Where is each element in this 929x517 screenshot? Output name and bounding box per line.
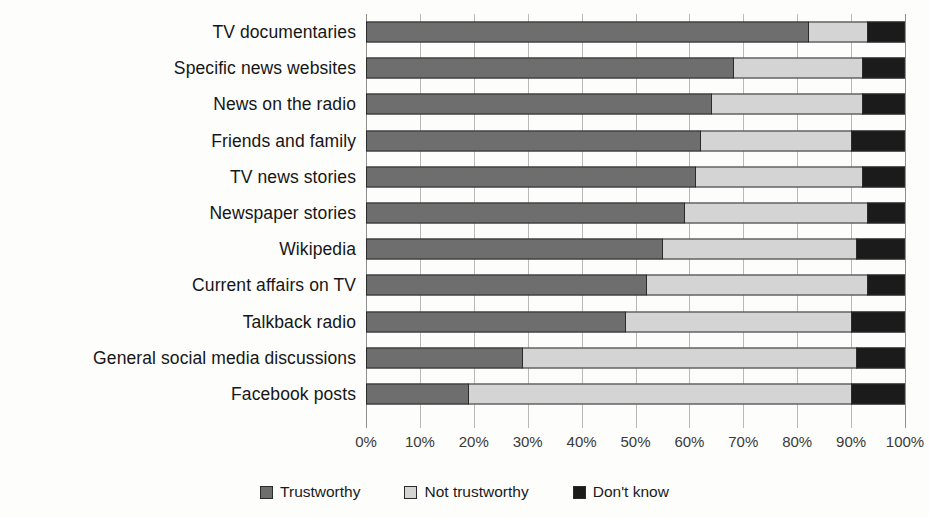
stacked-bar[interactable] [366, 166, 905, 187]
bar-segment-don-t-know[interactable] [862, 58, 905, 79]
bar-segment-trustworthy[interactable] [366, 22, 808, 43]
bar-segment-trustworthy[interactable] [366, 347, 522, 368]
bar-segment-don-t-know[interactable] [856, 347, 905, 368]
legend-label-not-trustworthy: Not trustworthy [424, 483, 528, 501]
x-axis-tick-labels: 0%10%20%30%40%50%60%70%80%90%100% [366, 432, 905, 458]
x-tick-label: 30% [513, 432, 543, 452]
legend-swatch-dont-know [573, 486, 586, 499]
legend-swatch-trustworthy [260, 486, 273, 499]
bar-segment-not-trustworthy[interactable] [700, 130, 851, 151]
bar-segment-not-trustworthy[interactable] [695, 166, 862, 187]
bar-segment-don-t-know[interactable] [851, 383, 905, 404]
bar-segment-not-trustworthy[interactable] [468, 383, 851, 404]
chart-row: TV documentaries [0, 14, 929, 50]
bar-segment-don-t-know[interactable] [862, 94, 905, 115]
bar-segment-trustworthy[interactable] [366, 239, 662, 260]
bar-segment-don-t-know[interactable] [867, 22, 905, 43]
bar-track [366, 123, 905, 159]
stacked-bar[interactable] [366, 94, 905, 115]
stacked-bar[interactable] [366, 275, 905, 296]
stacked-bar[interactable] [366, 130, 905, 151]
bar-track [366, 86, 905, 122]
stacked-bar[interactable] [366, 239, 905, 260]
legend-item-trustworthy[interactable]: Trustworthy [260, 483, 360, 501]
bar-segment-not-trustworthy[interactable] [646, 275, 867, 296]
chart-row: Talkback radio [0, 304, 929, 340]
chart-row: News on the radio [0, 86, 929, 122]
bar-track [366, 231, 905, 267]
stacked-bar[interactable] [366, 347, 905, 368]
category-label: News on the radio [0, 94, 366, 114]
bar-segment-don-t-know[interactable] [867, 275, 905, 296]
bar-segment-don-t-know[interactable] [851, 130, 905, 151]
bar-segment-don-t-know[interactable] [867, 203, 905, 224]
stacked-bar[interactable] [366, 58, 905, 79]
bar-segment-trustworthy[interactable] [366, 275, 646, 296]
legend-swatch-not-trustworthy [404, 486, 417, 499]
category-label: TV news stories [0, 167, 366, 187]
bar-track [366, 14, 905, 50]
bar-segment-not-trustworthy[interactable] [662, 239, 856, 260]
legend-item-not-trustworthy[interactable]: Not trustworthy [404, 483, 528, 501]
x-tick-label: 20% [459, 432, 489, 452]
chart-row: Current affairs on TV [0, 267, 929, 303]
bar-segment-don-t-know[interactable] [851, 311, 905, 332]
category-label: Friends and family [0, 131, 366, 151]
bar-track [366, 50, 905, 86]
bar-segment-not-trustworthy[interactable] [522, 347, 856, 368]
x-tick-label: 80% [782, 432, 812, 452]
bar-track [366, 159, 905, 195]
bar-segment-not-trustworthy[interactable] [625, 311, 851, 332]
chart-row: Facebook posts [0, 376, 929, 412]
category-label: General social media discussions [0, 348, 366, 368]
bar-segment-not-trustworthy[interactable] [684, 203, 867, 224]
bar-segment-trustworthy[interactable] [366, 166, 695, 187]
chart-legend: Trustworthy Not trustworthy Don't know [0, 483, 929, 501]
chart-row: Friends and family [0, 123, 929, 159]
category-label: Facebook posts [0, 384, 366, 404]
x-tick-label: 100% [886, 432, 924, 452]
category-label: Specific news websites [0, 58, 366, 78]
chart-row: General social media discussions [0, 340, 929, 376]
category-label: Wikipedia [0, 239, 366, 259]
category-label: Newspaper stories [0, 203, 366, 223]
bar-track [366, 267, 905, 303]
legend-item-dont-know[interactable]: Don't know [573, 483, 669, 501]
bar-track [366, 340, 905, 376]
bar-track [366, 376, 905, 412]
bar-segment-trustworthy[interactable] [366, 130, 700, 151]
bar-segment-trustworthy[interactable] [366, 58, 733, 79]
bar-segment-trustworthy[interactable] [366, 311, 625, 332]
chart-row: Specific news websites [0, 50, 929, 86]
stacked-bar[interactable] [366, 383, 905, 404]
legend-label-trustworthy: Trustworthy [280, 483, 360, 501]
chart-row: Wikipedia [0, 231, 929, 267]
chart-rows: TV documentariesSpecific news websitesNe… [0, 14, 929, 428]
x-tick-label: 60% [674, 432, 704, 452]
bar-track [366, 304, 905, 340]
bar-segment-trustworthy[interactable] [366, 383, 468, 404]
stacked-bar[interactable] [366, 311, 905, 332]
x-tick-label: 70% [728, 432, 758, 452]
bar-segment-not-trustworthy[interactable] [808, 22, 867, 43]
x-tick-label: 50% [620, 432, 650, 452]
category-label: Talkback radio [0, 312, 366, 332]
bar-segment-trustworthy[interactable] [366, 94, 711, 115]
bar-segment-don-t-know[interactable] [862, 166, 905, 187]
stacked-bar-chart: TV documentariesSpecific news websitesNe… [0, 0, 929, 517]
bar-segment-trustworthy[interactable] [366, 203, 684, 224]
legend-label-dont-know: Don't know [593, 483, 669, 501]
x-tick-label: 90% [836, 432, 866, 452]
stacked-bar[interactable] [366, 22, 905, 43]
bar-track [366, 195, 905, 231]
category-label: Current affairs on TV [0, 275, 366, 295]
bar-segment-not-trustworthy[interactable] [711, 94, 862, 115]
x-tick-label: 0% [355, 432, 377, 452]
x-tick-label: 40% [567, 432, 597, 452]
bar-segment-not-trustworthy[interactable] [733, 58, 862, 79]
category-label: TV documentaries [0, 22, 366, 42]
x-tick-label: 10% [405, 432, 435, 452]
bar-segment-don-t-know[interactable] [856, 239, 905, 260]
stacked-bar[interactable] [366, 203, 905, 224]
chart-row: Newspaper stories [0, 195, 929, 231]
